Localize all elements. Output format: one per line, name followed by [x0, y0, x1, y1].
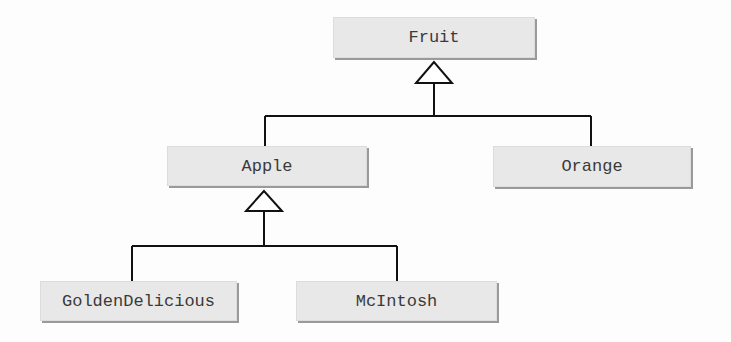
inheritance-arrow-fruit — [416, 62, 452, 83]
class-label-golden-delicious: GoldenDelicious — [62, 292, 215, 311]
class-label-fruit: Fruit — [408, 28, 459, 47]
class-box-fruit: Fruit — [333, 17, 535, 58]
inheritance-arrow-apple — [246, 191, 282, 211]
class-label-apple: Apple — [241, 157, 292, 176]
class-box-mcintosh: McIntosh — [296, 281, 497, 321]
class-diagram: Fruit Apple Orange GoldenDelicious McInt… — [0, 0, 731, 342]
class-label-mcintosh: McIntosh — [356, 292, 438, 311]
class-box-apple: Apple — [167, 146, 367, 186]
class-box-orange: Orange — [493, 146, 691, 187]
class-box-golden-delicious: GoldenDelicious — [40, 281, 237, 321]
class-label-orange: Orange — [561, 157, 622, 176]
